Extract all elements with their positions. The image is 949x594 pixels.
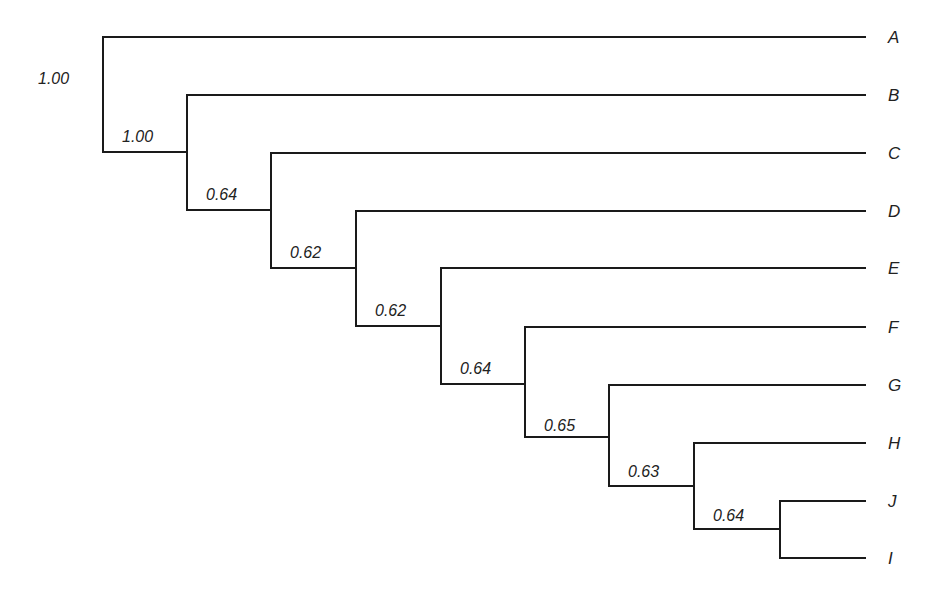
- support-label-node-7: 0.63: [628, 463, 659, 480]
- tree-branches: [103, 37, 865, 558]
- support-label-node-4: 0.62: [375, 302, 406, 319]
- support-label-node-6: 0.65: [544, 417, 575, 434]
- leaf-label-a: A: [887, 28, 899, 47]
- branch-node-8: [780, 501, 865, 558]
- leaf-label-d: D: [888, 202, 900, 221]
- phylogenetic-tree: 1.00 1.00 0.64 0.62 0.62 0.64 0.65 0.63 …: [0, 0, 949, 594]
- leaf-label-f: F: [888, 318, 900, 337]
- leaf-labels: A B C D E F G H J I: [887, 28, 901, 568]
- leaf-label-g: G: [888, 376, 901, 395]
- support-label-node-5: 0.64: [460, 360, 491, 377]
- support-label-node-8: 0.64: [713, 507, 744, 524]
- support-label-node-2: 0.64: [206, 186, 237, 203]
- support-values: 1.00 1.00 0.64 0.62 0.62 0.64 0.65 0.63 …: [38, 70, 744, 524]
- leaf-label-j: J: [887, 492, 897, 511]
- branch-node-5: [525, 327, 865, 437]
- support-label-node-0: 1.00: [38, 70, 69, 87]
- leaf-label-h: H: [888, 434, 901, 453]
- leaf-label-c: C: [888, 144, 901, 163]
- leaf-label-i: I: [888, 549, 893, 568]
- leaf-label-b: B: [888, 86, 899, 105]
- support-label-node-1: 1.00: [122, 128, 153, 145]
- support-label-node-3: 0.62: [290, 244, 321, 261]
- leaf-label-e: E: [888, 259, 900, 278]
